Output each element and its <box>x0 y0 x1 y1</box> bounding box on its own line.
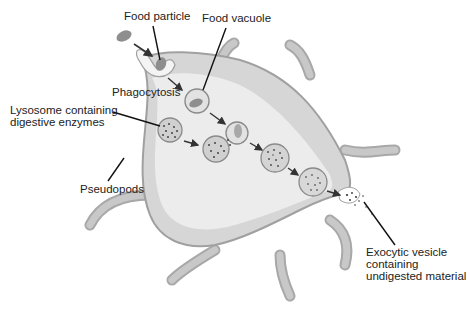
label-food-vacuole: Food vacuole <box>202 12 271 25</box>
lysosome <box>158 118 182 142</box>
label-exocytic-line3: undigested material <box>366 270 466 283</box>
phagocytosis-diagram: Food particle Food vacuole Phagocytosis … <box>0 0 470 313</box>
residual-body <box>299 168 327 196</box>
label-phagocytosis: Phagocytosis <box>112 86 180 99</box>
digestive-vacuole <box>261 144 289 172</box>
exocytic-opening <box>338 187 360 203</box>
label-pseudopods: Pseudopods <box>80 183 144 196</box>
label-food-particle: Food particle <box>124 10 190 23</box>
food-particle-free <box>115 28 134 44</box>
label-lysosome-line2: digestive enzymes <box>10 116 105 129</box>
